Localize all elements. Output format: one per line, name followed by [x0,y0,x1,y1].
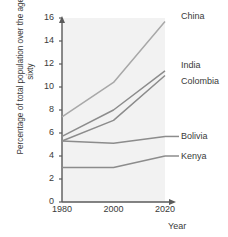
series-leader-lines [165,136,179,156]
x-tick-label-1980: 1980 [45,204,79,214]
y-axis-title: Percentage of total population over the … [16,0,35,159]
y-tick-label-2: 2 [36,173,54,183]
y-tick-label-4: 4 [36,150,54,160]
chart-container: Percentage of total population over the … [0,0,228,237]
y-tick-label-16: 16 [36,12,54,22]
y-tick-label-12: 12 [36,58,54,68]
series-label-china: China [181,11,205,21]
series-label-colombia: Colombia [181,76,219,86]
series-label-india: India [181,60,201,70]
series-label-bolivia: Bolivia [181,131,208,141]
y-tick-label-8: 8 [36,104,54,114]
series-label-kenya: Kenya [181,151,207,161]
y-tick-label-10: 10 [36,81,54,91]
y-tick-label-6: 6 [36,127,54,137]
y-tick-label-14: 14 [36,35,54,45]
x-axis-title: Year [168,221,186,231]
x-tick-label-2000: 2000 [97,204,131,214]
x-tick-label-2020: 2020 [148,204,182,214]
